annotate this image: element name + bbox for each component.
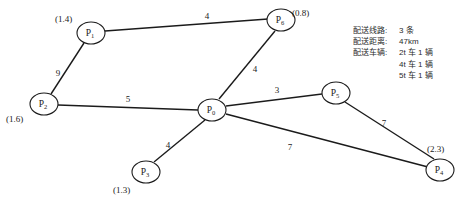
edge-p0-p4	[226, 114, 428, 167]
legend-key: 配送车辆:	[353, 47, 399, 58]
legend-value: 2t 车 1 辆	[399, 47, 433, 58]
node-p0[interactable]: P0	[198, 99, 226, 121]
node-p3[interactable]: P3	[132, 161, 160, 183]
edge-p1-p6	[105, 19, 268, 31]
legend-key: 配送距离:	[353, 36, 399, 47]
edge-weight-p0-p4: 7	[288, 142, 293, 152]
legend-value: 5t 车 1 辆	[399, 70, 433, 81]
legend-value: 4t 车 1 辆	[399, 59, 433, 70]
node-p4[interactable]: P4	[426, 159, 454, 181]
node-demand-p2: (1.6)	[6, 114, 23, 124]
edge-weight-p1-p2: 9	[56, 68, 61, 78]
legend-row: 配送车辆:5t 车 1 辆	[353, 70, 433, 81]
edge-weight-p0-p6: 4	[253, 64, 258, 74]
edge-p5-p4	[345, 102, 434, 159]
edge-weight-p2-p0: 5	[126, 94, 131, 104]
legend-value: 3 条	[399, 25, 433, 36]
edge-weight-p0-p3: 4	[166, 140, 171, 150]
legend-row: 配送车辆:4t 车 1 辆	[353, 59, 433, 70]
legend-key: 配送线路:	[353, 25, 399, 36]
legend-row: 配送车辆:2t 车 1 辆	[353, 47, 433, 58]
legend-row: 配送线路:3 条	[353, 25, 433, 36]
node-p6[interactable]: P6	[267, 9, 295, 31]
node-p5[interactable]: P5	[322, 82, 350, 104]
edge-weight-p5-p4: 7	[382, 118, 387, 128]
node-p1[interactable]: P1	[77, 22, 105, 44]
node-demand-p4: (2.3)	[427, 144, 444, 154]
legend-panel: 配送线路:3 条配送距离:47km配送车辆:2t 车 1 辆配送车辆:4t 车 …	[353, 25, 433, 81]
edge-weight-p0-p5: 3	[275, 85, 280, 95]
edge-p2-p0	[58, 105, 198, 110]
edge-weight-p1-p6: 4	[205, 11, 210, 21]
node-demand-p6: (0.8)	[292, 8, 309, 18]
edge-p0-p3	[154, 120, 205, 162]
legend-row: 配送距离:47km	[353, 36, 433, 47]
node-demand-p1: (1.4)	[55, 14, 72, 24]
edge-p0-p6	[219, 31, 275, 99]
diagram-page: P1P2P3P4P5P6P0 49544377(1.4)(1.6)(1.3)(2…	[0, 0, 467, 205]
legend-value: 47km	[399, 36, 433, 47]
node-p2[interactable]: P2	[30, 93, 58, 115]
node-demand-p3: (1.3)	[113, 185, 130, 195]
edge-p0-p5	[226, 94, 322, 106]
